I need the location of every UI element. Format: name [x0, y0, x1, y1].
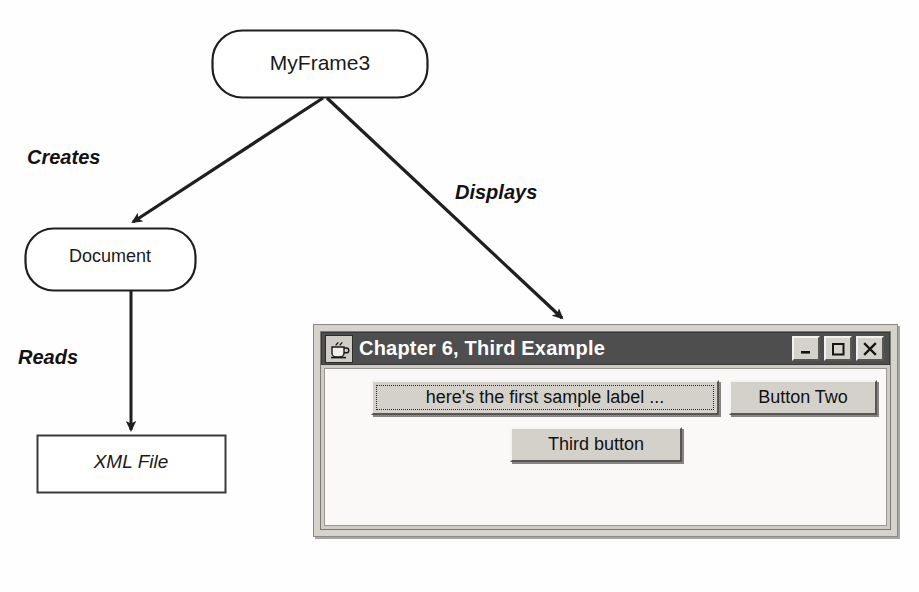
- close-button[interactable]: [856, 336, 884, 361]
- node-xmlfile-label: XML File: [37, 451, 225, 473]
- close-icon: [862, 341, 878, 357]
- window-title-text: Chapter 6, Third Example: [359, 337, 792, 360]
- maximize-icon: [830, 341, 846, 357]
- node-document-label: Document: [25, 246, 195, 267]
- app-window: Chapter 6, Third Example: [313, 324, 898, 537]
- button-two[interactable]: Button Two: [729, 380, 877, 415]
- third-button[interactable]: Third button: [510, 427, 682, 462]
- edge-displays-arrow: [327, 98, 562, 318]
- minimize-icon: [798, 341, 814, 357]
- first-sample-label-button-label: here's the first sample label ...: [426, 387, 665, 408]
- edge-creates-arrow: [133, 98, 323, 222]
- first-sample-label-button[interactable]: here's the first sample label ...: [371, 380, 719, 415]
- minimize-button[interactable]: [792, 336, 820, 361]
- third-button-label: Third button: [548, 434, 644, 455]
- button-two-label: Button Two: [758, 387, 848, 408]
- maximize-button[interactable]: [824, 336, 852, 361]
- window-content-panel: here's the first sample label ... Button…: [324, 368, 887, 526]
- edge-label-displays: Displays: [455, 181, 537, 204]
- edge-label-creates: Creates: [27, 146, 100, 169]
- java-coffee-cup-icon: [325, 335, 353, 363]
- edge-label-reads: Reads: [18, 346, 78, 369]
- node-myframe3-label: MyFrame3: [212, 51, 428, 75]
- window-title-bar[interactable]: Chapter 6, Third Example: [321, 332, 890, 365]
- window-inner-frame: Chapter 6, Third Example: [320, 331, 891, 530]
- window-controls: [792, 336, 884, 361]
